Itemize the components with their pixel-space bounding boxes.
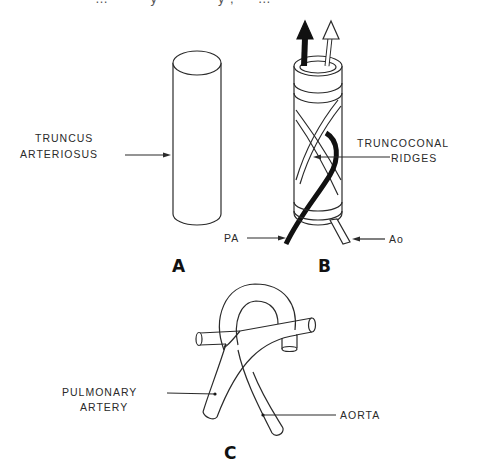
truncus-arteriosus-cylinder (173, 51, 221, 225)
pulmonary-label-line1: PULMONARY (62, 386, 137, 398)
ridges-label-line2: RIDGES (391, 152, 437, 164)
pa-pointer-arrow (247, 236, 286, 241)
truncus-with-ridges-cylinder (286, 21, 350, 244)
ridges-label-line1: TRUNCOCONAL (357, 137, 449, 149)
diagram-drawing (0, 0, 500, 471)
truncus-label-line2: ARTERIOSUS (20, 148, 98, 160)
ao-label: Ao (389, 233, 404, 245)
truncus-septation-diagram: … y y , … (0, 0, 500, 471)
pulmonary-label-line2: ARTERY (80, 401, 128, 413)
pulmonary-artery-leader (167, 393, 215, 394)
ao-pointer-arrow (352, 237, 385, 242)
truncus-label-line1: TRUNCUS (35, 132, 93, 144)
truncus-arteriosus-arrow (125, 153, 171, 158)
truncoconal-ridges-pointer (313, 155, 390, 160)
great-arteries-drawing (196, 284, 316, 435)
aorta-label: AORTA (340, 409, 380, 421)
pa-label: PA (224, 232, 239, 244)
panel-letter-c: C (224, 443, 236, 463)
panel-letter-a: A (172, 256, 185, 276)
panel-letter-b: B (318, 256, 331, 276)
